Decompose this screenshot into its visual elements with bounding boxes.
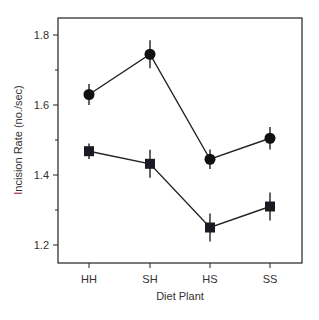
- x-tick-label: SH: [142, 273, 157, 285]
- x-tick-label: SS: [263, 273, 278, 285]
- circle-marker: [145, 49, 156, 60]
- series-line-circles: [89, 54, 270, 159]
- square-marker: [205, 223, 215, 233]
- y-axis-title: Incision Rate (no./sec): [12, 85, 24, 194]
- y-axis: 1.21.41.61.8: [34, 29, 58, 251]
- circle-marker: [205, 154, 216, 165]
- y-tick-label: 1.8: [34, 29, 49, 41]
- square-marker: [265, 202, 275, 212]
- circle-marker: [265, 133, 276, 144]
- x-tick-label: HH: [81, 273, 97, 285]
- square-marker: [84, 146, 94, 156]
- x-tick-label: HS: [202, 273, 217, 285]
- y-tick-label: 1.4: [34, 169, 49, 181]
- circle-marker: [84, 89, 95, 100]
- x-axis: HHSHHSSS: [81, 263, 277, 285]
- square-marker: [145, 159, 155, 169]
- y-tick-label: 1.2: [34, 239, 49, 251]
- line-chart: 1.21.41.61.8 HHSHHSSS Diet Plant Incisio…: [0, 0, 319, 320]
- series-line-squares: [89, 151, 270, 227]
- series-group: [84, 40, 276, 241]
- y-tick-label: 1.6: [34, 99, 49, 111]
- x-axis-title: Diet Plant: [156, 290, 204, 302]
